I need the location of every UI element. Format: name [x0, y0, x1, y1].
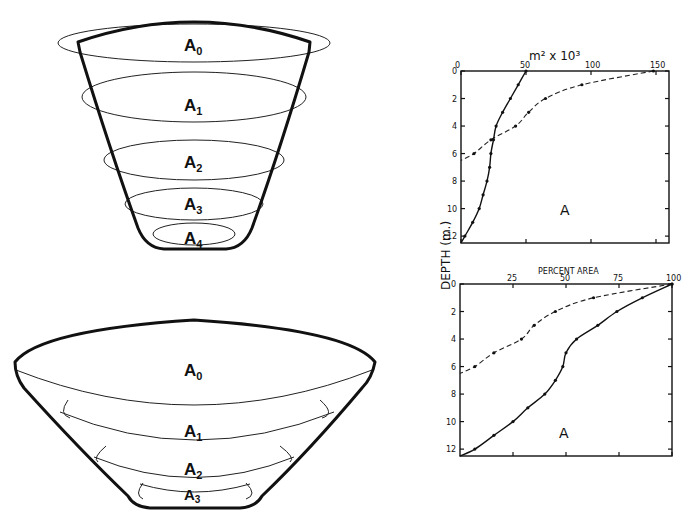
y-tick-label: 6: [451, 363, 456, 372]
data-point: [526, 406, 529, 409]
data-point: [561, 365, 564, 368]
data-point: [554, 310, 557, 313]
x-tick-label: 100: [666, 274, 681, 283]
label-a3: A3: [184, 195, 202, 216]
y-tick-label: 6: [452, 150, 457, 159]
data-point: [517, 83, 520, 86]
y-tick-label: 2: [452, 95, 457, 104]
y-tick-label: 8: [452, 177, 457, 186]
data-point: [463, 235, 466, 238]
data-point: [641, 296, 644, 299]
y-axis-title-depth: DEPTH (m.): [439, 221, 453, 290]
y-tick-label: 10: [447, 205, 457, 214]
data-point: [514, 124, 517, 127]
cone-outline: [78, 22, 310, 249]
x-tick-label: 50: [560, 274, 570, 283]
label-a1: A1: [184, 422, 202, 443]
y-tick-label: 4: [451, 335, 456, 344]
cone-diagram: A0 A1 A2 A3 A4: [58, 22, 330, 250]
data-point: [492, 351, 495, 354]
data-point: [524, 69, 527, 72]
data-point: [527, 111, 530, 114]
chart2-x-ticks: 255075100: [507, 274, 681, 456]
data-point: [489, 138, 492, 141]
data-point: [580, 83, 583, 86]
chart2-annotation: A: [559, 425, 569, 441]
data-point: [488, 166, 491, 169]
data-point: [495, 124, 498, 127]
data-point: [544, 97, 547, 100]
data-point: [596, 324, 599, 327]
x-tick-label: 50: [520, 61, 530, 70]
data-point: [489, 152, 492, 155]
data-point: [615, 310, 618, 313]
data-point: [652, 69, 655, 72]
data-point: [543, 392, 546, 395]
label-a4: A4: [184, 229, 203, 250]
x-tick-label: 150: [650, 61, 665, 70]
y-tick-label: 4: [452, 122, 457, 131]
data-point: [472, 152, 475, 155]
data-point: [670, 282, 673, 285]
ring-a3-right-arc: [246, 483, 252, 499]
data-point: [554, 379, 557, 382]
x-tick-label: 75: [613, 274, 623, 283]
data-point: [478, 207, 481, 210]
x-tick-label: 25: [507, 274, 517, 283]
label-a0: A0: [184, 361, 202, 382]
data-point: [485, 179, 488, 182]
y-tick-label: 10: [446, 418, 456, 427]
label-a0: A0: [184, 36, 202, 57]
ring-a3-left-arc: [139, 483, 144, 499]
bowl-diagram: A0 A1 A2 A3: [15, 320, 375, 508]
label-a1: A1: [184, 96, 202, 117]
data-point: [473, 448, 476, 451]
y-tick-label: 12: [446, 445, 456, 454]
y-tick-label: 2: [451, 308, 456, 317]
data-point: [482, 193, 485, 196]
bowl-labels: A0 A1 A2 A3: [184, 361, 202, 505]
data-point: [511, 420, 514, 423]
data-point: [473, 365, 476, 368]
data-point: [564, 351, 567, 354]
label-a2: A2: [184, 460, 202, 481]
y-tick-label: 0: [452, 67, 457, 76]
chart1-annotation: A: [560, 202, 570, 218]
bowl-outline: [15, 320, 375, 508]
data-point: [471, 221, 474, 224]
ring-a3-line: [140, 484, 250, 492]
label-a3: A3: [184, 486, 201, 505]
y-tick-label: 8: [451, 390, 456, 399]
data-point: [509, 97, 512, 100]
data-point: [592, 296, 595, 299]
chart1-dashed-series: [461, 71, 653, 160]
chart2-points: [473, 282, 673, 450]
chart1-solid-series: [461, 71, 526, 243]
data-point: [575, 337, 578, 340]
data-point: [533, 324, 536, 327]
data-point: [492, 434, 495, 437]
chart-percent-area-vs-depth: PERCENT AREA 255075100 024681012 A: [446, 267, 681, 456]
x-tick-label: 100: [585, 61, 600, 70]
chart-area-vs-depth: m² x 10³ 050100150 024681012 A: [447, 49, 669, 243]
cone-labels: A0 A1 A2 A3 A4: [184, 36, 203, 250]
ring-a2-right-arc: [280, 446, 292, 462]
data-point: [520, 337, 523, 340]
chart1-x-title: m² x 10³: [529, 49, 581, 63]
chart2-dashed-series: [460, 284, 672, 373]
label-a2: A2: [184, 153, 202, 174]
data-point: [501, 111, 504, 114]
diagram-canvas: A0 A1 A2 A3 A4 A0 A1 A2 A3 m² x 10³ 0501…: [0, 0, 689, 515]
